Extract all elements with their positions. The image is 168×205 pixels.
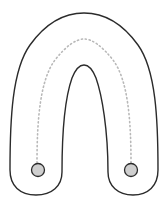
right-endpoint-circle [125, 164, 138, 177]
arch-diagram [0, 0, 168, 205]
left-endpoint-circle [32, 164, 45, 177]
